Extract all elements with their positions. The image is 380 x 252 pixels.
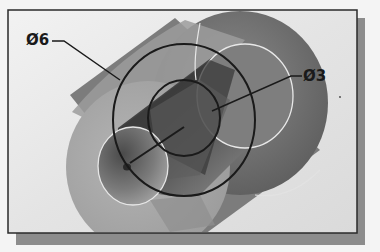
- front-hole: [98, 127, 168, 205]
- outer-diameter-label: Ø6: [26, 31, 49, 49]
- inner-diameter-label: Ø3: [303, 67, 326, 85]
- diagram-stage: Ø6 Ø3: [0, 0, 380, 252]
- cylinder-diagram: [0, 0, 380, 252]
